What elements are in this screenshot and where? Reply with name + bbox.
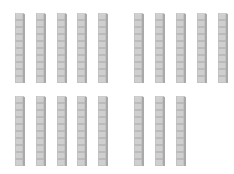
tens-rod <box>15 13 25 83</box>
tens-rod <box>36 13 46 83</box>
tens-rod <box>134 96 144 166</box>
tens-rod <box>176 96 186 166</box>
tens-rod <box>77 13 87 83</box>
diagram-caption: Base-ten blocks: tens rods <box>0 0 1 1</box>
tens-rod <box>218 13 228 83</box>
tens-rod <box>176 13 186 83</box>
tens-rod <box>15 96 25 166</box>
tens-rod <box>57 13 67 83</box>
tens-rod <box>77 96 87 166</box>
tens-rod <box>36 96 46 166</box>
tens-rod <box>134 13 144 83</box>
tens-rod <box>197 13 207 83</box>
tens-rod <box>57 96 67 166</box>
tens-rod <box>98 96 108 166</box>
tens-rod <box>155 96 165 166</box>
base-ten-blocks-diagram: Base-ten blocks: tens rods <box>0 0 234 174</box>
tens-rod <box>98 13 108 83</box>
tens-rod <box>155 13 165 83</box>
